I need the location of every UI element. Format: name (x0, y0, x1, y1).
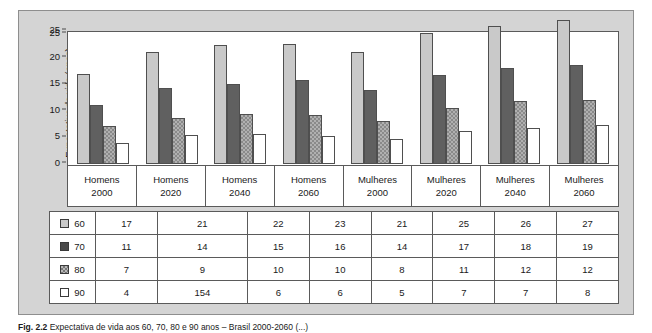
bar-series-80 (583, 100, 596, 164)
category-year: 2060 (573, 186, 594, 199)
legend-swatch-icon (60, 265, 69, 274)
table-cell: 5 (371, 281, 433, 304)
y-tick-label: 5 (55, 130, 66, 141)
bar-series-70 (501, 68, 514, 164)
category-year: 2020 (160, 186, 181, 199)
bar-group (206, 33, 275, 164)
bar-series-80 (172, 118, 185, 164)
figure-panel: Expectativa de vida (anos) 252520151050 … (18, 10, 634, 315)
category-cell: Mulheres2060 (550, 166, 618, 206)
bar-series-60 (488, 26, 501, 164)
legend-swatch-icon (60, 242, 69, 251)
y-tick-label: 0 (55, 157, 66, 168)
table-cell: 23 (309, 212, 371, 235)
table-cell: 26 (495, 212, 557, 235)
bar-series-60 (77, 74, 90, 164)
bar-group (412, 33, 481, 164)
bar-series-90 (459, 131, 472, 164)
bar-group (480, 33, 549, 164)
table-cell: 10 (247, 258, 309, 281)
table-cell: 25 (433, 212, 495, 235)
table-cell: 8 (557, 281, 619, 304)
table-cell: 18 (495, 235, 557, 258)
legend-cell-80: 80 (50, 258, 96, 281)
table-cell: 19 (557, 235, 619, 258)
bar-series-70 (433, 75, 446, 164)
category-sex: Mulheres (358, 173, 397, 186)
bar-series-90 (253, 134, 266, 164)
legend-swatch-icon (60, 219, 69, 228)
bar-group (69, 33, 138, 164)
table-cell: 10 (309, 258, 371, 281)
table-cell: 8 (371, 258, 433, 281)
data-table-body: 6017212223212526277011141516141718198079… (50, 212, 619, 304)
bar-series-90 (390, 139, 403, 164)
bar-series-70 (570, 65, 583, 164)
bar-group (549, 33, 618, 164)
table-row: 904154665778 (50, 281, 619, 304)
table-cell: 7 (495, 281, 557, 304)
figure-caption: Fig. 2.2 Expectativa de vida aos 60, 70,… (18, 322, 638, 332)
category-sex: Homens (153, 173, 188, 186)
bar-series-80 (446, 108, 459, 164)
legend-cell-90: 90 (50, 281, 96, 304)
bar-series-90 (185, 135, 198, 164)
bar-series-80 (309, 115, 322, 164)
category-sex: Homens (84, 173, 119, 186)
bar-series-90 (527, 128, 540, 164)
table-cell: 6 (247, 281, 309, 304)
table-cell: 9 (157, 258, 247, 281)
bar-series-60 (146, 52, 159, 164)
category-sex: Mulheres (565, 173, 604, 186)
table-cell: 4 (96, 281, 158, 304)
table-cell: 7 (96, 258, 158, 281)
caption-label: Fig. 2.2 (18, 322, 47, 332)
category-cell: Homens2040 (206, 166, 275, 206)
legend-label: 90 (74, 287, 85, 298)
table-row: 807910108111212 (50, 258, 619, 281)
table-cell: 22 (247, 212, 309, 235)
table-cell: 21 (371, 212, 433, 235)
plot-frame: 252520151050 (67, 31, 619, 166)
table-cell: 12 (557, 258, 619, 281)
legend-cell-70: 70 (50, 235, 96, 258)
table-cell: 12 (495, 258, 557, 281)
table-cell: 11 (433, 258, 495, 281)
data-table: 6017212223212526277011141516141718198079… (49, 211, 619, 304)
category-cell: Mulheres2020 (412, 166, 481, 206)
table-cell: 15 (247, 235, 309, 258)
bar-series-80 (514, 101, 527, 164)
category-sex: Homens (222, 173, 257, 186)
bar-series-60 (283, 44, 296, 164)
bar-series-90 (116, 143, 129, 164)
table-row: 601721222321252627 (50, 212, 619, 235)
y-tick-label: 20 (49, 50, 66, 61)
bar-series-80 (103, 126, 116, 164)
bars-layer (69, 33, 617, 164)
bar-series-90 (596, 125, 609, 164)
category-cell: Homens2000 (68, 166, 137, 206)
bar-series-60 (214, 45, 227, 164)
table-cell: 7 (433, 281, 495, 304)
table-cell: 16 (309, 235, 371, 258)
legend-cell-60: 60 (50, 212, 96, 235)
table-cell: 17 (96, 212, 158, 235)
bar-series-60 (557, 20, 570, 164)
bar-group (343, 33, 412, 164)
table-cell: 11 (96, 235, 158, 258)
category-sex: Homens (291, 173, 326, 186)
category-sex: Mulheres (427, 173, 466, 186)
chart-plot-region: Expectativa de vida (anos) 252520151050 (67, 31, 619, 166)
category-year: 2040 (229, 186, 250, 199)
bar-series-70 (296, 80, 309, 164)
bar-series-60 (351, 52, 364, 164)
legend-label: 60 (74, 218, 85, 229)
category-label-band: Homens2000Homens2020Homens2040Homens2060… (67, 166, 619, 207)
category-year: 2020 (436, 186, 457, 199)
table-cell: 21 (157, 212, 247, 235)
category-year: 2000 (367, 186, 388, 199)
category-year: 2000 (91, 186, 112, 199)
bar-series-80 (377, 121, 390, 164)
table-cell: 154 (157, 281, 247, 304)
bar-series-70 (90, 105, 103, 164)
